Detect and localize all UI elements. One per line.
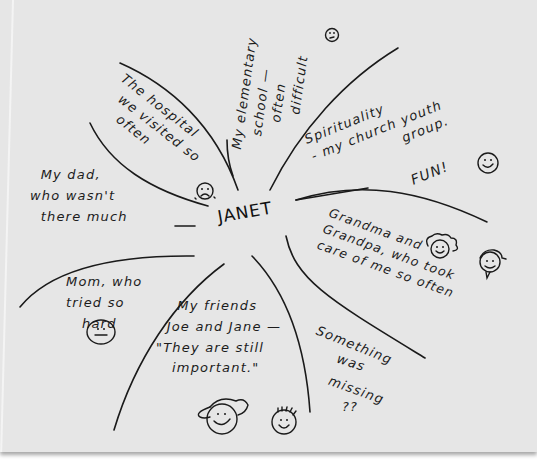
sad-face-icon <box>193 180 217 202</box>
section-missing-line4: ?? <box>342 398 358 416</box>
neutral-face-icon <box>85 317 119 347</box>
divider-center-right <box>296 188 368 200</box>
section-dad-text: My dad, who wasn't there much <box>30 165 128 227</box>
paper-sheet: JANET The hospital we visited so often M… <box>0 0 537 452</box>
worried-face-icon <box>324 27 340 43</box>
smiley-face-icon <box>475 150 501 176</box>
section-friends-text: My friends Joe and Jane — "They are stil… <box>156 296 281 379</box>
grandpa-face-icon <box>474 246 508 282</box>
joe-face-icon <box>268 400 302 438</box>
jane-face-icon <box>192 393 252 437</box>
grandma-face-icon <box>420 232 462 264</box>
